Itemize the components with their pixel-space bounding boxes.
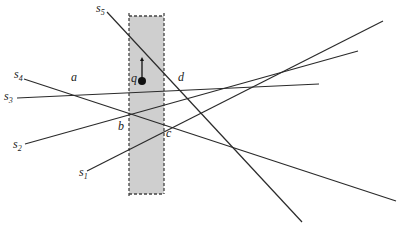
region-label-c: c: [166, 126, 172, 140]
segment-label-s4: s4: [14, 67, 23, 83]
vertical-slab: [129, 16, 164, 194]
segment-label-s2: s2: [13, 137, 22, 153]
region-label-d: d: [178, 70, 185, 84]
region-label-a: a: [71, 70, 77, 84]
region-label-b: b: [118, 119, 124, 133]
segment-label-s3: s3: [4, 89, 13, 105]
segment-label-s5: s5: [96, 1, 105, 17]
line-segments: [17, 12, 396, 222]
query-point-label: q: [131, 71, 137, 85]
segment-s2: [25, 51, 358, 144]
query-point-dot: [138, 77, 146, 85]
trapezoidal-map-diagram: s1s2s3s4s5 abcd q: [0, 0, 398, 228]
segment-labels: s1s2s3s4s5: [4, 1, 105, 181]
segment-label-s1: s1: [79, 165, 88, 181]
segment-s4: [24, 79, 396, 201]
region-labels: abcd: [71, 70, 185, 140]
